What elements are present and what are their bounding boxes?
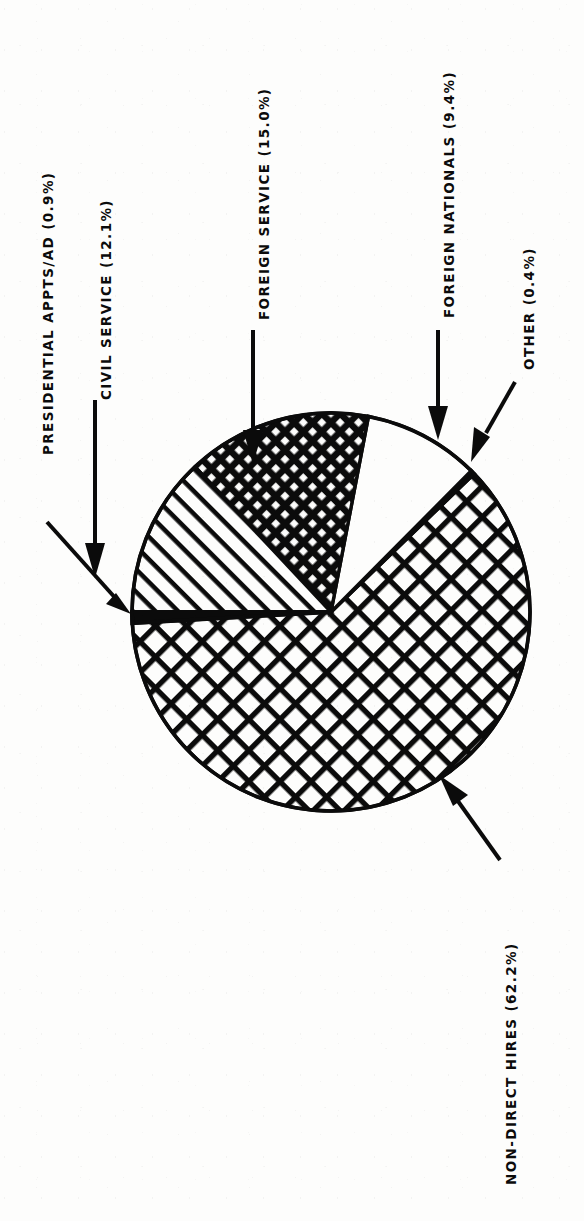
arrow-foreign-nationals xyxy=(428,330,448,440)
figure-canvas: PRESIDENTIAL APPTS/AD (0.9%) CIVIL SERVI… xyxy=(0,0,584,1221)
arrow-other xyxy=(471,382,515,462)
arrow-non-direct-hires xyxy=(439,775,500,860)
label-foreign-nationals: FOREIGN NATIONALS (9.4%) xyxy=(443,71,457,318)
label-presidential-appts: PRESIDENTIAL APPTS/AD (0.9%) xyxy=(42,172,56,455)
pie-chart-graphic xyxy=(0,0,584,1221)
label-foreign-service: FOREIGN SERVICE (15.0%) xyxy=(258,88,272,320)
label-non-direct-hires: NON-DIRECT HIRES (62.2%) xyxy=(505,943,519,1185)
pie-slices xyxy=(132,413,530,811)
arrow-presidential-appts xyxy=(47,522,131,614)
arrow-civil-service xyxy=(85,400,105,578)
label-civil-service: CIVIL SERVICE (12.1%) xyxy=(100,199,114,400)
label-other: OTHER (0.4%) xyxy=(523,247,537,370)
